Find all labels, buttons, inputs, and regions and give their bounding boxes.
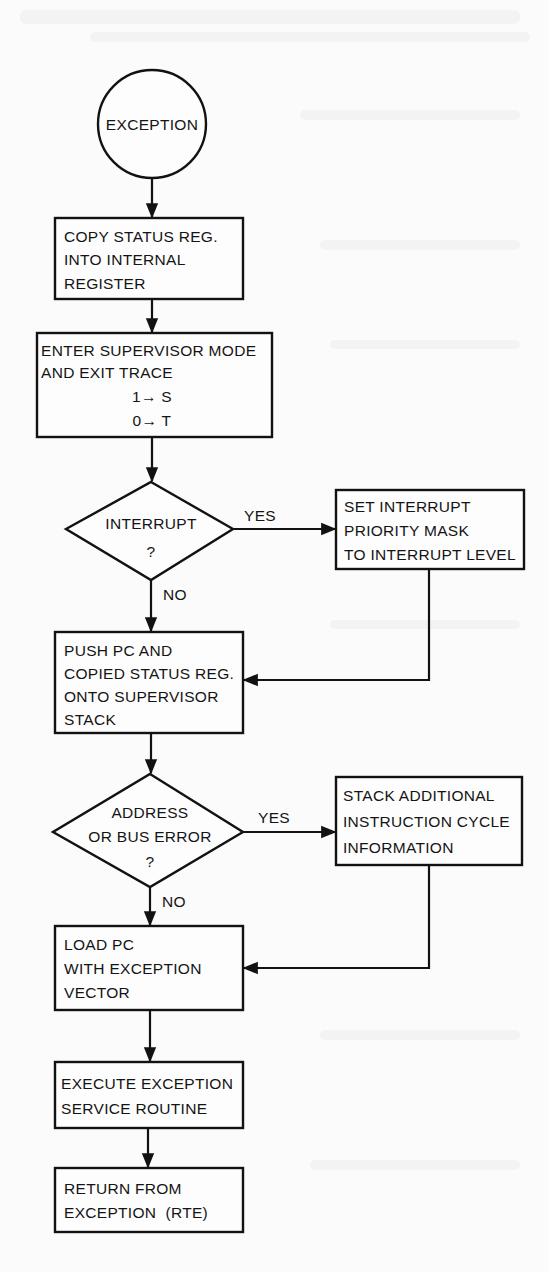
process-enter-supervisor-mode: ENTER SUPERVISOR MODE AND EXIT TRACE 1→ … xyxy=(37,333,272,437)
edge-stack-to-load xyxy=(244,865,429,968)
node-text-line: VECTOR xyxy=(64,984,130,1001)
node-text-line: RETURN FROM xyxy=(64,1180,182,1197)
exception-flowchart: EXCEPTION COPY STATUS REG. INTO INTERNAL… xyxy=(0,0,549,1272)
node-text-line: STACK ADDITIONAL xyxy=(343,787,495,804)
edge-label-no: NO xyxy=(163,586,187,603)
node-text-line: REGISTER xyxy=(64,275,146,292)
process-execute-service-routine: EXECUTE EXCEPTION SERVICE ROUTINE xyxy=(55,1062,243,1128)
node-text-line: EXCEPTION (RTE) xyxy=(64,1204,208,1221)
process-copy-status-register: COPY STATUS REG. INTO INTERNAL REGISTER xyxy=(55,218,243,299)
node-text-line: COPIED STATUS REG. xyxy=(64,665,234,682)
node-text-line: ENTER SUPERVISOR MODE xyxy=(41,342,256,359)
node-text-line: COPY STATUS REG. xyxy=(64,228,218,245)
decision-interrupt: INTERRUPT ? xyxy=(66,482,233,580)
node-text-line: AND EXIT TRACE xyxy=(41,364,173,381)
process-return-from-exception: RETURN FROM EXCEPTION (RTE) xyxy=(55,1168,243,1232)
edge-label-yes: YES xyxy=(258,809,290,826)
node-text-line: ONTO SUPERVISOR xyxy=(64,688,219,705)
node-text-line: SET INTERRUPT xyxy=(344,498,471,515)
node-text-line: INSTRUCTION CYCLE xyxy=(343,813,510,830)
node-text-line: INTO INTERNAL xyxy=(64,251,186,268)
process-stack-additional-info: STACK ADDITIONAL INSTRUCTION CYCLE INFOR… xyxy=(336,777,522,865)
start-node-exception: EXCEPTION xyxy=(98,70,206,178)
node-text-line: 1→ S xyxy=(132,388,172,405)
node-text-line: ? xyxy=(146,853,155,870)
process-load-pc: LOAD PC WITH EXCEPTION VECTOR xyxy=(55,926,243,1010)
edge-label-no: NO xyxy=(162,893,186,910)
node-text-line: PUSH PC AND xyxy=(64,642,172,659)
edge-label-yes: YES xyxy=(244,507,276,524)
node-text-line: PRIORITY MASK xyxy=(344,522,469,539)
process-push-pc: PUSH PC AND COPIED STATUS REG. ONTO SUPE… xyxy=(55,632,243,733)
node-text-line: LOAD PC xyxy=(64,936,134,953)
process-set-interrupt-mask: SET INTERRUPT PRIORITY MASK TO INTERRUPT… xyxy=(336,490,524,569)
decision-address-bus-error: ADDRESS OR BUS ERROR ? xyxy=(53,774,243,887)
node-text-line: SERVICE ROUTINE xyxy=(61,1100,207,1117)
node-text-line: ? xyxy=(147,543,156,560)
start-label: EXCEPTION xyxy=(106,116,198,133)
node-text-line: INTERRUPT xyxy=(105,515,197,532)
node-text-line: 0→ T xyxy=(133,412,172,429)
node-text-line: OR BUS ERROR xyxy=(88,828,211,845)
node-text-line: TO INTERRUPT LEVEL xyxy=(344,546,516,563)
node-text-line: WITH EXCEPTION xyxy=(64,960,202,977)
node-text-line: ADDRESS xyxy=(111,804,188,821)
node-text-line: STACK xyxy=(64,711,116,728)
node-text-line: INFORMATION xyxy=(343,839,454,856)
node-text-line: EXECUTE EXCEPTION xyxy=(61,1075,233,1092)
